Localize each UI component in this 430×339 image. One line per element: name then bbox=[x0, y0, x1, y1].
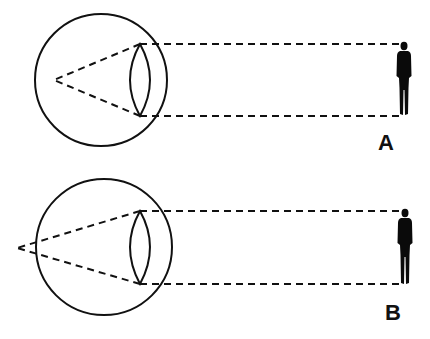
person-figure-b bbox=[398, 209, 413, 284]
panel-b bbox=[17, 179, 404, 315]
panel-label-b: B bbox=[385, 302, 401, 324]
lens-b bbox=[130, 211, 150, 284]
light-rays-a bbox=[54, 44, 402, 116]
eyeball-b bbox=[36, 179, 172, 315]
panel-label-a: A bbox=[378, 132, 394, 154]
panel-a bbox=[35, 14, 402, 146]
person-figure-a bbox=[397, 42, 412, 115]
lens-a bbox=[130, 44, 150, 116]
light-rays-b bbox=[17, 211, 404, 284]
eye-optics-diagram bbox=[0, 0, 430, 339]
eyeball-a bbox=[35, 14, 167, 146]
